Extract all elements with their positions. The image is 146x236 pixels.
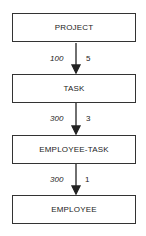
entity-label: TASK: [63, 84, 84, 93]
entity-label: EMPLOYEE-TASK: [39, 145, 109, 154]
arrowhead-icon: [72, 186, 80, 194]
relationship-right-value: 1: [85, 175, 89, 184]
relationship-right-value: 3: [86, 114, 90, 123]
relationship-right-value: 5: [86, 54, 90, 63]
relationship-left-value: 300: [50, 175, 63, 184]
entity-project: PROJECT: [12, 13, 136, 42]
entity-employee-task: EMPLOYEE-TASK: [12, 135, 136, 164]
entity-label: EMPLOYEE: [51, 205, 97, 214]
entity-task: TASK: [12, 74, 136, 103]
entity-employee: EMPLOYEE: [12, 195, 136, 224]
relationship-left-value: 100: [50, 54, 63, 63]
arrowhead-icon: [72, 65, 80, 73]
arrowhead-icon: [72, 126, 80, 134]
relationship-left-value: 300: [50, 114, 63, 123]
entity-label: PROJECT: [55, 23, 94, 32]
